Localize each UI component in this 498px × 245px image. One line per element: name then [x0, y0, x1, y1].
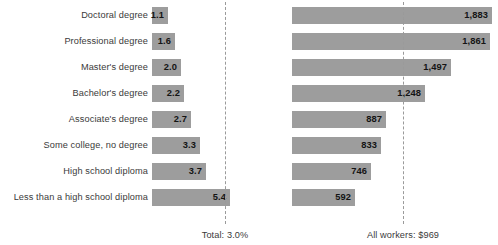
unemployment-bar: 5.4: [152, 189, 230, 206]
chart-row: Associate's degree 2.7 887: [0, 111, 498, 137]
unemployment-bar: 2.2: [152, 85, 184, 102]
earnings-bar-value: 1,883: [464, 7, 488, 24]
earnings-bar: 1,497: [292, 59, 451, 76]
unemployment-total-note: Total: 3.0%: [165, 229, 285, 242]
chart-row: Bachelor's degree 2.2 1,248: [0, 85, 498, 111]
category-label: Some college, no degree: [0, 137, 148, 154]
earnings-bar: 592: [292, 189, 355, 206]
unemployment-bar-value: 2.0: [164, 59, 177, 76]
chart-row: Less than a high school diploma 5.4 592: [0, 189, 498, 215]
earnings-bar: 1,861: [292, 33, 490, 50]
unemployment-bar: 2.7: [152, 111, 191, 128]
unemployment-bar: 1.1: [152, 7, 168, 24]
category-label: Master's degree: [0, 59, 148, 76]
chart-row: Some college, no degree 3.3 833: [0, 137, 498, 163]
category-label: Less than a high school diploma: [0, 189, 148, 206]
earnings-bar: 1,883: [292, 7, 492, 24]
chart-row: Master's degree 2.0 1,497: [0, 59, 498, 85]
unemployment-bar-value: 3.7: [189, 163, 202, 180]
earnings-bar-value: 1,248: [397, 85, 421, 102]
earnings-bar: 887: [292, 111, 386, 128]
unemployment-bar-value: 1.1: [151, 7, 164, 24]
earnings-bar: 746: [292, 163, 371, 180]
category-label: Professional degree: [0, 33, 148, 50]
unemployment-bar-value: 2.2: [167, 85, 180, 102]
category-label: High school diploma: [0, 163, 148, 180]
category-label: Bachelor's degree: [0, 85, 148, 102]
category-label: Doctoral degree: [0, 7, 148, 24]
chart-row: Professional degree 1.6 1,861: [0, 33, 498, 59]
unemployment-bar: 1.6: [152, 33, 175, 50]
unemployment-bar-value: 5.4: [213, 189, 226, 206]
unemployment-bar: 2.0: [152, 59, 181, 76]
education-unemployment-earnings-chart: Doctoral degree 1.1 1,883 Professional d…: [0, 0, 498, 245]
earnings-bar: 833: [292, 137, 381, 154]
unemployment-bar-value: 2.7: [174, 111, 187, 128]
earnings-reference-line: [403, 2, 404, 224]
unemployment-bar: 3.3: [152, 137, 200, 154]
earnings-bar-value: 833: [361, 137, 377, 154]
earnings-allworkers-note: All workers: $969: [343, 229, 463, 242]
unemployment-bar: 3.7: [152, 163, 206, 180]
unemployment-bar-value: 1.6: [158, 33, 171, 50]
unemployment-bar-value: 3.3: [183, 137, 196, 154]
earnings-bar-value: 746: [351, 163, 367, 180]
earnings-bar-value: 887: [366, 111, 382, 128]
earnings-bar-value: 1,861: [462, 33, 486, 50]
unemployment-reference-line: [225, 2, 226, 224]
earnings-bar-value: 592: [335, 189, 351, 206]
chart-row: High school diploma 3.7 746: [0, 163, 498, 189]
category-label: Associate's degree: [0, 111, 148, 128]
earnings-bar: 1,248: [292, 85, 425, 102]
chart-row: Doctoral degree 1.1 1,883: [0, 7, 498, 33]
earnings-bar-value: 1,497: [423, 59, 447, 76]
